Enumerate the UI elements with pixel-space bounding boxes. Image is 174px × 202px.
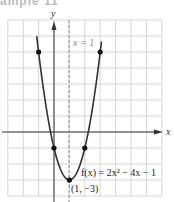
y-axis-arrow-icon	[52, 21, 57, 30]
data-point	[98, 49, 103, 54]
x-axis-label: x	[165, 126, 171, 137]
data-point	[82, 145, 87, 150]
symmetry-label: x = 1	[72, 37, 94, 48]
parabola-chart: x y x = 1 f(x) = 2x² − 4x − 1 (1, −3)	[0, 0, 174, 202]
function-label: f(x) = 2x² − 4x − 1	[81, 167, 156, 179]
y-axis-label: y	[50, 8, 56, 19]
data-point	[36, 49, 41, 54]
data-point	[67, 177, 72, 182]
data-point	[51, 145, 56, 150]
vertex-label: (1, −3)	[71, 183, 98, 195]
